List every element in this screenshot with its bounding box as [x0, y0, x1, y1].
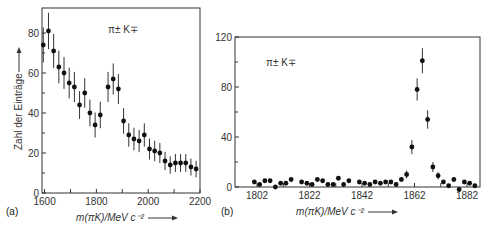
chart-figure: 0204060801600180020002200π± K∓m(πK)/MeV … [0, 0, 495, 234]
y-tick-label: 40 [221, 132, 233, 143]
data-point [121, 119, 126, 124]
data-point [268, 178, 273, 183]
data-point [183, 161, 188, 166]
data-point [383, 180, 388, 185]
data-point [62, 71, 67, 76]
data-point [325, 182, 330, 187]
data-point [111, 77, 116, 82]
data-point [178, 161, 183, 166]
data-point [315, 177, 320, 182]
x-tick-label: 1800 [85, 196, 108, 207]
y-tick-label: 20 [28, 148, 40, 159]
data-point [367, 182, 372, 187]
data-point [77, 103, 82, 108]
x-tick-label: 1600 [33, 196, 56, 207]
data-point [157, 151, 162, 156]
data-point [462, 180, 467, 185]
panel-a-ylabel: Zahl der Einträge [13, 73, 24, 150]
data-point [168, 163, 173, 168]
data-point [362, 181, 367, 186]
panel-a-annotation: π± K∓ [108, 24, 138, 35]
data-point [116, 87, 121, 92]
data-point [425, 117, 430, 122]
panel-b-annotation: π± K∓ [266, 57, 296, 68]
data-point [93, 123, 98, 128]
data-point [252, 180, 257, 185]
panel-a-label: (a) [6, 206, 18, 217]
panel-a-frame [42, 8, 200, 193]
data-point [446, 183, 451, 188]
data-point [194, 167, 199, 172]
data-point [346, 178, 351, 183]
data-point [373, 180, 378, 185]
x-tick-label: 1842 [351, 190, 374, 201]
y-tick-label: 120 [215, 32, 232, 43]
data-point [189, 165, 194, 170]
data-point [341, 182, 346, 187]
data-point [173, 161, 178, 166]
data-point [56, 65, 61, 70]
data-point [278, 181, 283, 186]
data-point [152, 149, 157, 154]
data-point [257, 182, 262, 187]
data-point [126, 133, 131, 138]
data-point [51, 49, 56, 54]
data-point [106, 85, 111, 90]
panel-b-xlabel: m(πK)/MeV c⁻² [296, 206, 364, 217]
data-point [98, 113, 103, 118]
y-tick-label: 0 [226, 182, 232, 193]
data-point [147, 147, 152, 152]
y-tick-label: 40 [28, 108, 40, 119]
data-point [457, 187, 462, 192]
data-point [46, 29, 51, 34]
data-point [336, 176, 341, 181]
data-point [41, 43, 46, 48]
data-point [320, 178, 325, 183]
data-point [273, 185, 278, 190]
panel-a-xlabel: m(πK)/MeV c⁻² [76, 212, 144, 223]
x-tick-label: 2200 [189, 196, 212, 207]
data-point [137, 139, 142, 144]
data-point [441, 180, 446, 185]
data-point [289, 177, 294, 182]
data-point [163, 159, 168, 164]
data-point [415, 87, 420, 92]
y-tick-label: 60 [28, 68, 40, 79]
x-tick-label: 1862 [403, 190, 426, 201]
data-point [88, 111, 93, 116]
data-point [378, 181, 383, 186]
data-point [304, 181, 309, 186]
x-tick-label: 1802 [246, 190, 269, 201]
data-point [399, 177, 404, 182]
data-point [430, 165, 435, 170]
data-point [404, 172, 409, 177]
data-point [331, 182, 336, 187]
data-point [142, 133, 147, 138]
data-point [310, 182, 315, 187]
data-point [436, 173, 441, 178]
panel-b-label: (b) [221, 206, 233, 217]
x-tick-label: 2000 [137, 196, 160, 207]
data-point [472, 183, 477, 188]
data-point [283, 181, 288, 186]
data-point [388, 180, 393, 185]
y-tick-label: 80 [221, 82, 233, 93]
data-point [262, 178, 267, 183]
data-point [357, 180, 362, 185]
data-point [451, 177, 456, 182]
data-point [420, 58, 425, 63]
data-point [409, 145, 414, 150]
x-tick-label: 1822 [298, 190, 321, 201]
y-tick-label: 80 [28, 28, 40, 39]
data-point [72, 85, 77, 90]
data-point [132, 137, 137, 142]
data-point [467, 181, 472, 186]
data-point [67, 81, 72, 86]
data-point [299, 180, 304, 185]
data-point [82, 91, 87, 96]
data-point [394, 182, 399, 187]
